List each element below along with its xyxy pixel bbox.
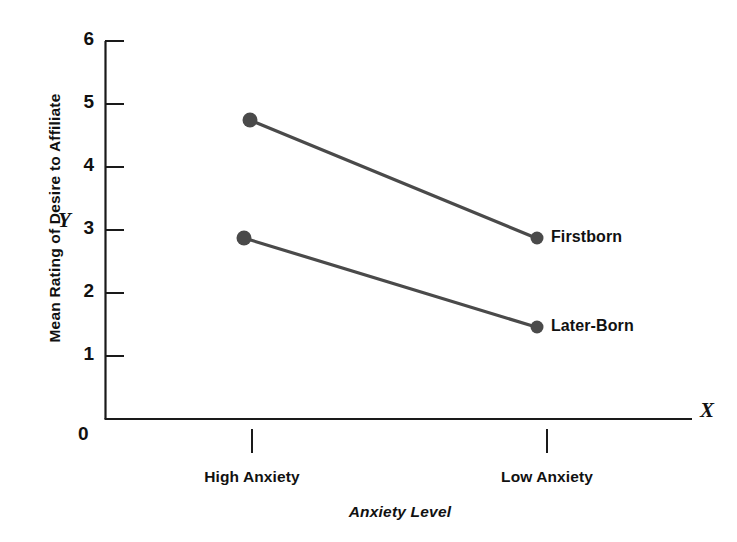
- series-label-firstborn: Firstborn: [551, 228, 622, 246]
- y-axis-origin-label: 0: [78, 423, 89, 445]
- series-label-later-born: Later-Born: [551, 317, 634, 335]
- affiliation-anxiety-line-chart: Mean Rating of Desire to Affiliate Y X 6…: [0, 0, 737, 542]
- series-line-later-born: [244, 238, 536, 327]
- y-tick-label-6: 6: [72, 28, 94, 50]
- x-axis-ticks: [252, 429, 547, 453]
- x-category-label-low-anxiety: Low Anxiety: [467, 468, 627, 486]
- data-point-later-born-high-anxiety: [237, 231, 252, 246]
- y-tick-label-2: 2: [72, 280, 94, 302]
- chart-canvas: [0, 0, 737, 542]
- y-tick-label-3: 3: [72, 217, 94, 239]
- y-tick-label-1: 1: [72, 343, 94, 365]
- data-point-firstborn-high-anxiety: [243, 113, 258, 128]
- series-line-firstborn: [250, 120, 536, 238]
- data-point-firstborn-low-anxiety: [531, 232, 544, 245]
- y-tick-label-4: 4: [72, 154, 94, 176]
- x-axis-title: Anxiety Level: [280, 503, 520, 521]
- y-tick-label-5: 5: [72, 91, 94, 113]
- x-category-label-high-anxiety: High Anxiety: [172, 468, 332, 486]
- x-axis-variable-label: X: [700, 398, 714, 423]
- y-axis-ticks: [105, 41, 124, 356]
- y-axis-variable-label: Y: [58, 208, 71, 233]
- data-point-later-born-low-anxiety: [531, 321, 544, 334]
